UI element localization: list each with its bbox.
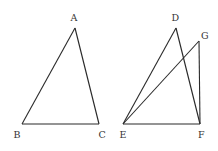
label-B: B — [14, 129, 21, 140]
label-E: E — [120, 129, 127, 140]
segments — [22, 28, 200, 124]
label-F: F — [198, 129, 205, 140]
segment-CA — [75, 28, 99, 124]
segment-DE — [123, 28, 176, 124]
segment-DF — [176, 28, 200, 124]
geometry-diagram: A B C D G E F — [0, 0, 218, 151]
segment-AB — [22, 28, 75, 124]
segment-GF — [199, 41, 200, 124]
label-C: C — [99, 129, 106, 140]
vertex-labels: A B C D G E F — [14, 12, 209, 140]
label-D: D — [172, 12, 180, 23]
segment-GE — [123, 41, 199, 124]
label-G: G — [201, 30, 209, 41]
label-A: A — [70, 12, 78, 23]
